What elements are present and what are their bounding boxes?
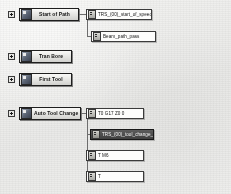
field-icon xyxy=(92,130,100,139)
field-icon xyxy=(88,109,96,118)
field-label: T xyxy=(98,173,143,180)
field-icon xyxy=(88,151,96,160)
field-label: T M6 xyxy=(98,152,143,159)
group-node-tran-bore[interactable]: Tran Bore xyxy=(19,50,72,63)
group-node-start-of-path[interactable]: Start of Path xyxy=(19,8,79,21)
expander-auto-tool-change[interactable] xyxy=(8,110,15,117)
field-label: Beam_path_pass xyxy=(103,33,155,40)
field-icon xyxy=(93,32,101,41)
field-node-start-of-path-prog[interactable]: TRS_(00)_start_of_speed xyxy=(86,9,152,20)
field-node-atc-g17[interactable]: T0 G17 Z0 0 xyxy=(86,108,144,119)
expander-start-of-path[interactable] xyxy=(8,11,15,18)
field-label: TRS_(00)_tool_change_frt xyxy=(102,131,153,138)
group-label: First Tool xyxy=(34,76,71,84)
block-icon xyxy=(21,51,32,62)
field-label: TRS_(00)_start_of_speed xyxy=(98,11,151,18)
field-node-beam-path-pass[interactable]: Beam_path_pass xyxy=(91,31,156,42)
expander-tran-bore[interactable] xyxy=(8,53,15,60)
expander-first-tool[interactable] xyxy=(8,76,15,83)
field-icon xyxy=(88,172,96,181)
field-label: T0 G17 Z0 0 xyxy=(98,110,143,117)
field-node-atc-m6[interactable]: T M6 xyxy=(86,150,144,161)
block-icon xyxy=(21,9,32,20)
group-node-auto-tool-change[interactable]: Auto Tool Change xyxy=(19,107,81,120)
group-label: Start of Path xyxy=(34,11,78,19)
connector-v xyxy=(87,113,88,176)
block-icon xyxy=(21,108,32,119)
group-label: Auto Tool Change xyxy=(34,110,80,118)
tree-canvas: Start of Path TRS_(00)_start_of_speed Be… xyxy=(0,0,231,194)
field-node-atc-t[interactable]: T xyxy=(86,171,144,182)
field-node-atc-tool-change[interactable]: TRS_(00)_tool_change_frt xyxy=(90,129,154,140)
group-label: Tran Bore xyxy=(34,53,71,61)
field-icon xyxy=(88,10,96,19)
group-node-first-tool[interactable]: First Tool xyxy=(19,73,72,86)
block-icon xyxy=(21,74,32,85)
